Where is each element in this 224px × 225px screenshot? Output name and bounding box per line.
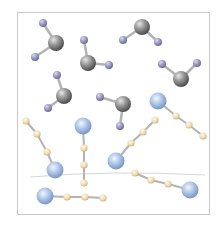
tan-atom: [33, 130, 40, 137]
tan-atom: [43, 148, 50, 155]
gray-atom: [80, 55, 96, 71]
purple-atom: [116, 122, 124, 130]
purple-atom: [80, 36, 88, 44]
tan-atom: [199, 132, 206, 139]
gray-atom: [48, 35, 64, 51]
tan-atom: [151, 116, 158, 123]
gray-atom: [134, 19, 150, 35]
purple-atom: [105, 61, 113, 69]
purple-atom: [39, 19, 47, 27]
tan-atom: [80, 179, 87, 186]
particle-diagram: [0, 0, 224, 225]
purple-atom: [44, 104, 52, 112]
blue-atom: [37, 188, 54, 205]
tan-atom: [139, 128, 146, 135]
purple-atom: [119, 36, 127, 44]
purple-atom: [158, 60, 166, 68]
blue-atom: [47, 162, 64, 179]
purple-atom: [31, 53, 39, 61]
purple-atom: [154, 38, 162, 46]
tan-atom: [80, 161, 87, 168]
gray-atom: [115, 96, 131, 112]
tan-atom: [127, 139, 134, 146]
gray-atom: [56, 88, 72, 104]
tan-atom: [131, 169, 138, 176]
gray-atom: [173, 71, 189, 87]
purple-atom: [193, 59, 201, 67]
tan-atom: [99, 194, 106, 201]
blue-atom: [108, 153, 125, 170]
tan-atom: [81, 193, 88, 200]
tan-atom: [22, 117, 29, 124]
blue-atom: [75, 118, 92, 135]
tan-atom: [185, 121, 192, 128]
tan-atom: [80, 144, 87, 151]
tan-atom: [172, 112, 179, 119]
tan-atom: [147, 176, 154, 183]
purple-atom: [53, 71, 61, 79]
blue-atom: [150, 93, 167, 110]
blue-atom: [182, 182, 199, 199]
tan-atom: [63, 193, 70, 200]
tan-atom: [164, 180, 171, 187]
purple-atom: [96, 93, 104, 101]
